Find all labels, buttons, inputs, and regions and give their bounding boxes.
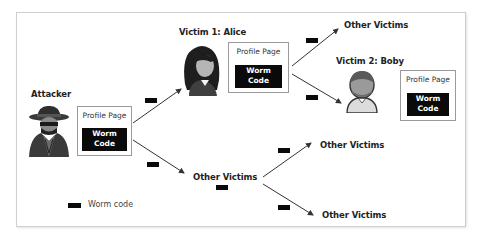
attacker-profile-page: Profile Page Worm Code [77, 106, 132, 156]
arrow-attacker-to-other [133, 140, 184, 173]
worm-chip-other-top-right [278, 148, 290, 153]
victim2-label: Victim 2: Boby [336, 56, 404, 66]
profile-page-title: Profile Page [229, 47, 288, 56]
arrow-other-to-bottom-right [263, 184, 313, 215]
worm-chip-attacker-other [147, 162, 159, 167]
boby-profile-page: Profile Page Worm Code [400, 70, 456, 121]
other-victims-label-mid-right: Other Victims [320, 140, 384, 150]
profile-page-title: Profile Page [401, 75, 455, 84]
worm-chip-attacker-alice [145, 98, 157, 103]
alice-female-avatar-icon [181, 44, 223, 96]
other-victims-label-bottom-right: Other Victims [322, 210, 386, 220]
worm-code-block: Worm Code [82, 128, 127, 151]
alice-profile-page: Profile Page Worm Code [228, 42, 289, 93]
arrow-attacker-to-alice [133, 89, 181, 123]
worm-chip-other-bottom-right [278, 205, 290, 210]
boby-male-avatar-icon [343, 69, 381, 113]
worm-code-block: Worm Code [407, 93, 449, 116]
legend-worm-code-label: Worm code [88, 200, 133, 209]
worm-chip-alice-other [306, 38, 318, 43]
worm-code-block: Worm Code [235, 65, 282, 88]
legend-worm-code-swatch [68, 203, 81, 208]
profile-page-title: Profile Page [78, 111, 131, 120]
worm-chip-other-center [216, 185, 228, 190]
attacker-label: Attacker [31, 89, 71, 99]
other-victims-label-top: Other Victims [344, 20, 408, 30]
arrow-alice-to-other [292, 29, 338, 66]
worm-chip-alice-boby [306, 95, 318, 100]
attacker-hacker-icon [27, 105, 71, 157]
victim1-label: Victim 1: Alice [179, 27, 246, 37]
other-victims-label-center: Other Victims [193, 172, 257, 182]
